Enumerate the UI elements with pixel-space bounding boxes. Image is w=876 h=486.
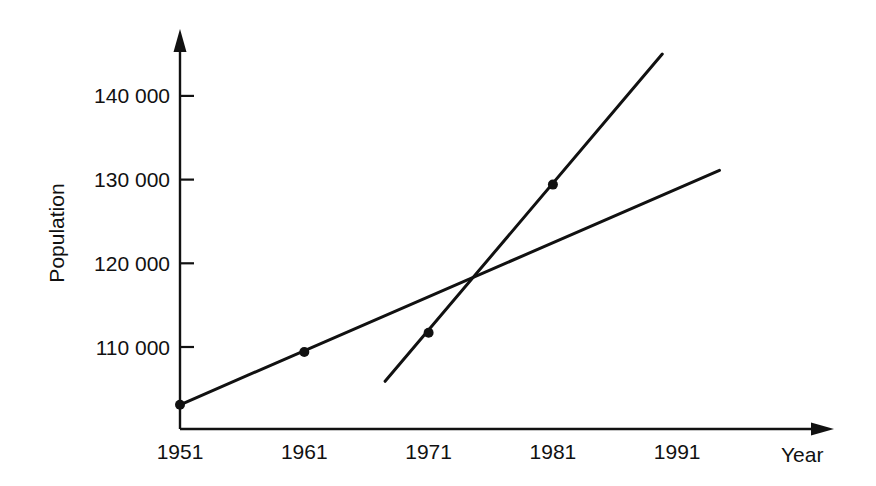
tick-labels: 110 000120 000130 000140 000195119611971… [94,84,700,463]
chart-svg: 110 000120 000130 000140 000195119611971… [0,0,876,486]
population-chart: 110 000120 000130 000140 000195119611971… [0,0,876,486]
ticks [180,96,194,347]
y-axis-title: Population [45,183,68,282]
data-point [175,400,185,410]
x-tick-label: 1971 [405,440,452,463]
y-tick-label: 140 000 [94,84,170,107]
y-tick-label: 130 000 [94,168,170,191]
y-tick-label: 110 000 [96,336,170,359]
x-axis-arrow-icon [811,423,834,436]
y-tick-label: 120 000 [94,252,170,275]
data-point [548,180,558,190]
x-tick-label: 1991 [654,440,701,463]
x-tick-label: 1961 [281,440,328,463]
x-tick-label: 1981 [530,440,577,463]
data-point [299,347,309,357]
x-tick-label: 1951 [157,440,204,463]
y-axis-arrow-icon [174,29,187,52]
axes [174,29,835,436]
data-point [424,328,434,338]
series-line-1 [180,170,719,404]
x-axis-title: Year [781,443,823,466]
series-lines [180,54,719,405]
data-points [175,180,558,410]
